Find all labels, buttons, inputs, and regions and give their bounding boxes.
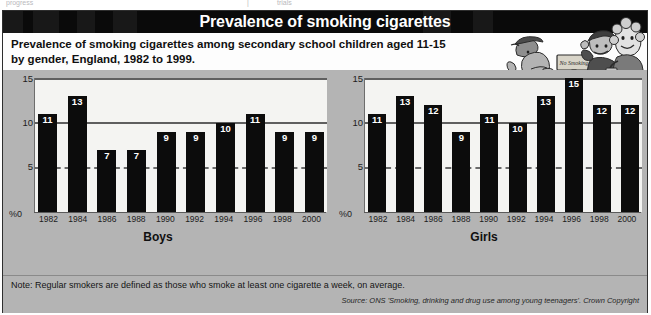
y-axis-boys: 15 10 5 bbox=[3, 70, 33, 230]
bar-1996-girls[interactable]: 15 bbox=[565, 78, 583, 212]
chart-label-boys: Boys bbox=[0, 230, 323, 244]
bar-1984-boys[interactable]: 13 bbox=[68, 96, 87, 212]
y-tick-5-girls: 5 bbox=[337, 161, 363, 172]
figure-subtitle-panel: Prevalence of smoking cigarettes among s… bbox=[3, 33, 647, 71]
charts-area: 15 10 5 %0 11 13 7 7 9 bbox=[3, 70, 647, 275]
bar-value: 9 bbox=[193, 133, 198, 143]
bar-2000-girls[interactable]: 12 bbox=[621, 105, 639, 212]
x-axis-labels-girls: 1982 1984 1986 1988 1990 1992 1994 1996 … bbox=[364, 214, 641, 224]
x-label: 1988 bbox=[448, 214, 474, 224]
bar-1994-boys[interactable]: 10 bbox=[216, 123, 235, 212]
bar-1988-boys[interactable]: 7 bbox=[127, 150, 146, 212]
x-label: 1992 bbox=[503, 214, 529, 224]
figure-title-bar: Prevalence of smoking cigarettes bbox=[3, 11, 647, 33]
bar-1990-girls[interactable]: 11 bbox=[480, 114, 498, 212]
bleed-text-mid-marker: | bbox=[247, 0, 249, 6]
x-label: 1982 bbox=[365, 214, 391, 224]
x-label: 1986 bbox=[93, 214, 120, 224]
x-axis-line-girls bbox=[364, 212, 641, 213]
figure-title: Prevalence of smoking cigarettes bbox=[3, 13, 647, 31]
y-tick-5-boys: 5 bbox=[7, 161, 33, 172]
bleed-text-left: progress bbox=[6, 0, 33, 6]
x-label: 1988 bbox=[123, 214, 150, 224]
bar-1986-boys[interactable]: 7 bbox=[97, 150, 116, 212]
x-label: 1982 bbox=[35, 214, 62, 224]
bar-value: 13 bbox=[400, 97, 411, 107]
bar-value: 10 bbox=[512, 124, 523, 134]
bar-1992-boys[interactable]: 9 bbox=[186, 132, 205, 212]
x-label: 1986 bbox=[420, 214, 446, 224]
bar-value: 9 bbox=[459, 133, 464, 143]
y-axis-girls: 15 10 5 bbox=[333, 70, 363, 230]
bar-1988-girls[interactable]: 9 bbox=[452, 132, 470, 212]
x-axis-line-boys bbox=[34, 212, 326, 213]
x-label: 1992 bbox=[181, 214, 208, 224]
x-label: 1984 bbox=[393, 214, 419, 224]
bars-girls: 11 13 12 9 11 10 13 15 12 12 bbox=[365, 78, 642, 212]
y-zero-label-boys: %0 bbox=[9, 209, 22, 219]
bar-1986-girls[interactable]: 12 bbox=[424, 105, 442, 212]
bar-value: 11 bbox=[372, 115, 382, 125]
plot-area-boys: 11 13 7 7 9 9 10 11 9 9 bbox=[34, 78, 327, 212]
footnote-source: Source: ONS 'Smoking, drinking and drug … bbox=[341, 296, 639, 305]
bars-boys: 11 13 7 7 9 9 10 11 9 9 bbox=[35, 78, 327, 212]
bar-1994-girls[interactable]: 13 bbox=[537, 96, 555, 212]
figure-container: Prevalence of smoking cigarettes Prevale… bbox=[2, 10, 648, 313]
bar-value: 13 bbox=[540, 97, 551, 107]
bar-value: 7 bbox=[134, 151, 139, 161]
x-label: 1998 bbox=[586, 214, 612, 224]
bar-value: 11 bbox=[42, 115, 52, 125]
bar-1998-boys[interactable]: 9 bbox=[275, 132, 294, 212]
bar-1998-girls[interactable]: 12 bbox=[593, 105, 611, 212]
bar-1984-girls[interactable]: 13 bbox=[396, 96, 414, 212]
x-label: 1994 bbox=[531, 214, 557, 224]
chart-panel-boys: 15 10 5 %0 11 13 7 7 9 bbox=[3, 70, 333, 275]
chart-panel-girls: 15 10 5 %0 11 13 12 9 11 bbox=[333, 70, 647, 275]
bar-2000-boys[interactable]: 9 bbox=[305, 132, 324, 212]
x-axis-labels-boys: 1982 1984 1986 1988 1990 1992 1994 1996 … bbox=[34, 214, 326, 224]
page-bleed-text: progress | trials bbox=[0, 0, 651, 10]
bar-1982-boys[interactable]: 11 bbox=[38, 114, 57, 212]
bar-value: 10 bbox=[220, 124, 231, 134]
bar-value: 9 bbox=[312, 133, 317, 143]
bar-value: 12 bbox=[625, 106, 636, 116]
figure-footer: Note: Regular smokers are defined as tho… bbox=[3, 275, 647, 313]
x-label: 1984 bbox=[64, 214, 91, 224]
figure-subtitle: Prevalence of smoking cigarettes among s… bbox=[11, 37, 491, 67]
bar-value: 15 bbox=[568, 79, 579, 89]
y-tick-10-girls: 10 bbox=[337, 117, 363, 128]
subtitle-line-2: by gender, England, 1982 to 1999. bbox=[11, 53, 195, 65]
y-tick-15-boys: 15 bbox=[7, 73, 33, 84]
bar-value: 11 bbox=[250, 115, 260, 125]
bar-1996-boys[interactable]: 11 bbox=[246, 114, 265, 212]
subtitle-line-1: Prevalence of smoking cigarettes among s… bbox=[11, 38, 446, 50]
bar-value: 7 bbox=[104, 151, 109, 161]
x-label: 2000 bbox=[298, 214, 325, 224]
bar-value: 11 bbox=[484, 115, 494, 125]
x-label: 1996 bbox=[559, 214, 585, 224]
bar-value: 12 bbox=[597, 106, 608, 116]
bar-value: 12 bbox=[428, 106, 439, 116]
y-tick-15-girls: 15 bbox=[337, 73, 363, 84]
x-label: 2000 bbox=[614, 214, 640, 224]
bar-1982-girls[interactable]: 11 bbox=[368, 114, 386, 212]
bleed-text-mid: trials bbox=[277, 0, 292, 6]
chart-label-girls: Girls bbox=[327, 230, 641, 244]
bar-1992-girls[interactable]: 10 bbox=[509, 123, 527, 212]
x-label: 1994 bbox=[210, 214, 237, 224]
bar-1990-boys[interactable]: 9 bbox=[157, 132, 176, 212]
x-label: 1996 bbox=[240, 214, 267, 224]
y-zero-label-girls: %0 bbox=[339, 209, 352, 219]
bar-value: 9 bbox=[163, 133, 168, 143]
footnote-note: Note: Regular smokers are defined as tho… bbox=[11, 280, 405, 290]
x-label: 1998 bbox=[269, 214, 296, 224]
x-label: 1990 bbox=[152, 214, 179, 224]
bar-value: 9 bbox=[282, 133, 287, 143]
plot-area-girls: 11 13 12 9 11 10 13 15 12 12 bbox=[364, 78, 642, 212]
bar-value: 13 bbox=[72, 97, 83, 107]
x-label: 1990 bbox=[476, 214, 502, 224]
y-tick-10-boys: 10 bbox=[7, 117, 33, 128]
